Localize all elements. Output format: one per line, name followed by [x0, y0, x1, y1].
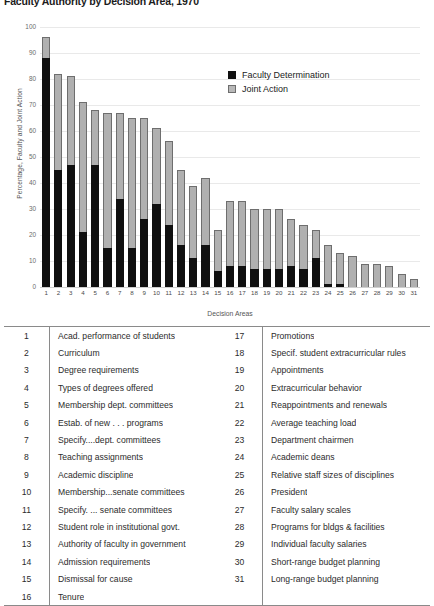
- bar-segment-joint-action: [140, 118, 148, 219]
- bar-segment-joint-action: [165, 141, 173, 224]
- decision-area-number: 17: [217, 327, 263, 344]
- bar-segment-joint-action: [116, 113, 124, 199]
- y-axis-tick-label: 20: [6, 232, 36, 238]
- decision-area-label: Acad. performance of students: [50, 331, 175, 341]
- legend-label: Joint Action: [242, 84, 288, 94]
- decision-area-number: 27: [217, 501, 263, 518]
- table-row: 16Tenure: [4, 588, 217, 605]
- legend-item-joint-action: Joint Action: [228, 84, 330, 94]
- decision-area-number: 11: [4, 501, 50, 518]
- bar-segment-joint-action: [361, 264, 369, 287]
- decision-area-number: 21: [217, 397, 263, 414]
- decision-area-number: 18: [217, 344, 263, 361]
- bar-segment-faculty-determination: [250, 269, 258, 287]
- decision-area-label: Academic discipline: [50, 470, 133, 480]
- table-row: 18Specif. student extracurricular rules: [217, 344, 430, 361]
- bar-segment-joint-action: [67, 76, 75, 164]
- bar-segment-joint-action: [287, 219, 295, 266]
- bar-segment-joint-action: [91, 110, 99, 165]
- decision-area-number: 19: [217, 362, 263, 379]
- bar-segment-faculty-determination: [79, 232, 87, 287]
- decision-area-label: Student role in institutional govt.: [50, 522, 180, 532]
- decision-area-number: 4: [4, 379, 50, 396]
- decision-area-number: 16: [4, 588, 50, 605]
- bar-segment-joint-action: [226, 201, 234, 266]
- decision-area-number: 3: [4, 362, 50, 379]
- table-row: 12Student role in institutional govt.: [4, 518, 217, 535]
- table-row: 24Academic deans: [217, 449, 430, 466]
- gridline: [40, 53, 420, 54]
- table-row: 31Long-range budget planning: [217, 570, 430, 587]
- bar-segment-joint-action: [324, 245, 332, 284]
- table-row: 15Dismissal for cause: [4, 570, 217, 587]
- decision-area-number: 7: [4, 431, 50, 448]
- bar-segment-faculty-determination: [165, 225, 173, 287]
- bar-segment-faculty-determination: [324, 284, 332, 287]
- bar-stack: [226, 201, 234, 287]
- page-title: Faculty Authority by Decision Area, 1970: [4, 0, 199, 7]
- bar-segment-joint-action: [336, 253, 344, 284]
- bar-stack: [287, 219, 295, 287]
- bar-stack: [152, 128, 160, 287]
- bar-segment-faculty-determination: [312, 258, 320, 287]
- bar-segment-faculty-determination: [287, 266, 295, 287]
- decision-area-label: Teaching assignments: [50, 452, 143, 462]
- decision-area-label: Department chairmen: [263, 435, 354, 445]
- bar-segment-faculty-determination: [91, 165, 99, 287]
- decision-area-label: Tenure: [50, 592, 84, 602]
- table-row: 8Teaching assignments: [4, 449, 217, 466]
- decision-area-number: 20: [217, 379, 263, 396]
- bar-stack: [177, 170, 185, 287]
- bar-segment-faculty-determination: [116, 199, 124, 287]
- x-axis-tick-label: 31: [407, 290, 421, 296]
- decision-area-label: Dismissal for cause: [50, 574, 133, 584]
- table-row: 3Degree requirements: [4, 362, 217, 379]
- bar-stack: [140, 118, 148, 287]
- bar-stack: [201, 178, 209, 287]
- bar-segment-joint-action: [189, 186, 197, 259]
- decision-areas-column-right: 17Promotions18Specif. student extracurri…: [217, 326, 430, 606]
- bar-segment-faculty-determination: [226, 266, 234, 287]
- y-axis-tick-label: 40: [6, 180, 36, 186]
- legend-label: Faculty Determination: [242, 70, 330, 80]
- decision-area-label: Curriculum: [50, 348, 100, 358]
- x-axis-title: Decision Areas: [40, 310, 420, 317]
- bar-stack: [275, 209, 283, 287]
- bar-segment-faculty-determination: [128, 248, 136, 287]
- decision-area-number: 31: [217, 570, 263, 587]
- decision-area-label: Specif. student extracurricular rules: [263, 348, 406, 358]
- chart-legend: Faculty Determination Joint Action: [228, 70, 330, 98]
- decision-area-label: Estab. of new . . . programs: [50, 418, 163, 428]
- bar-segment-faculty-determination: [336, 284, 344, 287]
- decision-area-label: Membership dept. committees: [50, 400, 173, 410]
- bar-stack: [385, 266, 393, 287]
- gridline: [40, 27, 420, 28]
- decision-area-label: Appointments: [263, 365, 324, 375]
- table-row: 1Acad. performance of students: [4, 327, 217, 344]
- bar-segment-joint-action: [250, 209, 258, 269]
- table-row: 5Membership dept. committees: [4, 397, 217, 414]
- bar-stack: [299, 225, 307, 287]
- y-axis-tick-label: 50: [6, 154, 36, 160]
- bar-segment-joint-action: [398, 274, 406, 287]
- decision-area-number: 30: [217, 553, 263, 570]
- decision-area-number: 10: [4, 484, 50, 501]
- table-row: 21Reappointments and renewals: [217, 397, 430, 414]
- decision-area-number: 9: [4, 466, 50, 483]
- table-row: 10Membership...senate committees: [4, 484, 217, 501]
- bar-segment-joint-action: [275, 209, 283, 269]
- bar-segment-faculty-determination: [201, 245, 209, 287]
- y-axis-title: Percentage, Faculty and Joint Action: [16, 79, 23, 209]
- decision-area-number: 2: [4, 344, 50, 361]
- decision-area-label: Extracurricular behavior: [263, 383, 362, 393]
- bar-stack: [189, 186, 197, 287]
- decision-areas-table: 1Acad. performance of students2Curriculu…: [4, 326, 430, 606]
- bar-stack: [67, 76, 75, 287]
- decision-area-number: 5: [4, 397, 50, 414]
- bar-stack: [79, 102, 87, 287]
- table-row: 28Programs for bldgs & facilities: [217, 518, 430, 535]
- table-row: 11Specify. ... senate committees: [4, 501, 217, 518]
- decision-area-label: Short-range budget planning: [263, 557, 380, 567]
- decision-area-label: Programs for bldgs & facilities: [263, 522, 385, 532]
- bar-stack: [91, 110, 99, 287]
